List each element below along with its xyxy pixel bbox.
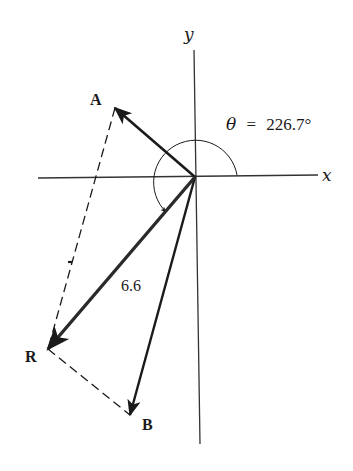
x-axis — [38, 175, 318, 178]
vector-a-label: A — [90, 91, 102, 108]
vector-diagram: y x θ = 226.7° A B R 6.6 — [0, 0, 353, 471]
y-axis — [194, 50, 200, 444]
dashed-line-a-to-r — [48, 108, 115, 349]
dashed-line-r-to-b — [48, 349, 130, 415]
angle-value: 226.7° — [266, 115, 311, 134]
vector-b-label: B — [142, 416, 153, 433]
y-axis-label: y — [183, 24, 194, 44]
vector-r-label: R — [25, 348, 37, 365]
angle-label: θ = 226.7° — [226, 114, 311, 134]
equals-sign: = — [247, 115, 257, 134]
magnitude-label: 6.6 — [121, 277, 141, 294]
x-axis-label: x — [322, 165, 332, 185]
theta-symbol: θ — [226, 114, 236, 134]
